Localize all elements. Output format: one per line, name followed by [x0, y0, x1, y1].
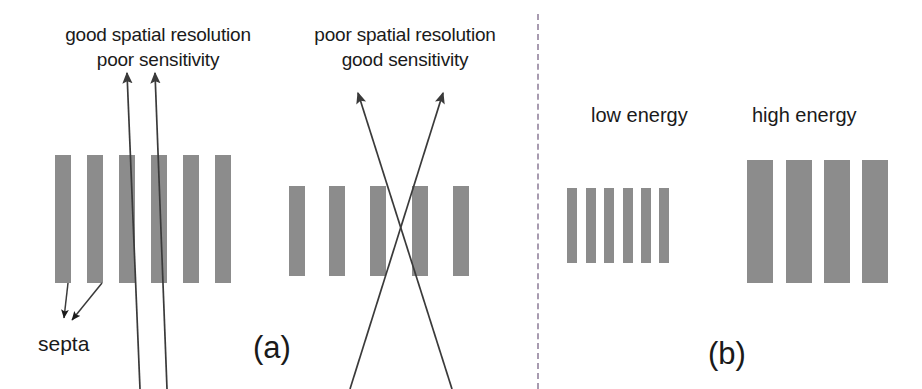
left-collimator-rays — [127, 73, 167, 389]
gamma-ray-line — [358, 93, 452, 389]
septa-label: septa — [38, 333, 89, 354]
gamma-ray-line — [127, 73, 140, 389]
low-energy-label: low energy — [591, 105, 688, 125]
gamma-ray-line — [350, 93, 443, 389]
panel-divider — [537, 14, 539, 389]
septa-pointer-arrow — [72, 283, 102, 320]
panel-b-letter: (b) — [708, 338, 746, 369]
ray-overlay — [0, 0, 922, 389]
panel-a-letter: (a) — [253, 332, 291, 363]
collimator-diagram: good spatial resolution poor sensitivity… — [0, 0, 922, 389]
gamma-ray-line — [155, 73, 167, 389]
septa-pointer-arrows — [64, 283, 102, 320]
septa-pointer-arrow — [64, 283, 68, 318]
right-collimator-rays — [350, 93, 452, 389]
high-energy-label: high energy — [752, 105, 857, 125]
